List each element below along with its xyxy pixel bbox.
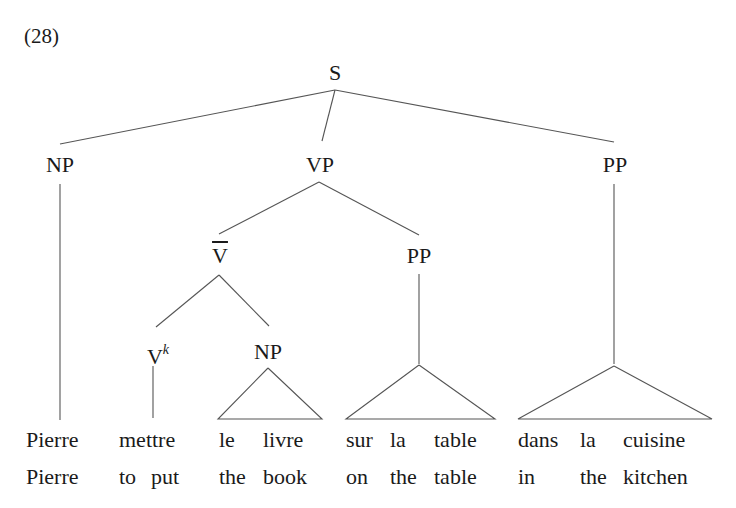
word-fr: la: [580, 429, 596, 451]
word-gloss: the: [580, 466, 607, 488]
word-gloss: to: [119, 466, 136, 488]
word-gloss: the: [390, 466, 417, 488]
word-gloss: table: [434, 466, 477, 488]
word-gloss: book: [263, 466, 307, 488]
word-gloss: kitchen: [623, 466, 688, 488]
word-fr: cuisine: [623, 429, 685, 451]
triangle-pp-dans-la-cuisine: [518, 366, 712, 419]
example-number: (28): [24, 24, 59, 49]
word-gloss: the: [219, 466, 246, 488]
node-np-subject: NP: [46, 154, 74, 176]
node-vp: VP: [306, 154, 334, 176]
branch-s-np: [60, 90, 335, 144]
word-gloss: in: [518, 466, 535, 488]
syntax-tree-figure: (28) S NP VP PP V PP Vk NP Pierre mettre…: [0, 0, 736, 508]
word-fr: dans: [518, 429, 558, 451]
branch-vbar-vk: [156, 275, 219, 327]
word-fr: mettre: [119, 429, 175, 451]
word-fr: la: [390, 429, 406, 451]
node-v-k: Vk: [147, 341, 169, 368]
triangle-np-le-livre: [218, 368, 322, 419]
node-np-object: NP: [254, 341, 282, 363]
word-gloss: Pierre: [26, 466, 79, 488]
node-v-bar: V: [212, 245, 228, 267]
word-fr: le: [219, 429, 235, 451]
word-fr: Pierre: [26, 429, 79, 451]
node-v-k-base: V: [147, 344, 163, 369]
branch-vbar-np: [219, 275, 269, 326]
branch-vp-vbar: [219, 182, 319, 234]
branch-s-pp: [335, 90, 614, 142]
node-pp-locative: PP: [603, 154, 627, 176]
word-fr: sur: [346, 429, 373, 451]
branch-s-vp: [322, 90, 335, 141]
word-gloss: on: [346, 466, 368, 488]
word-gloss: put: [151, 466, 179, 488]
node-pp-goal: PP: [407, 245, 431, 267]
branch-vp-pp: [319, 182, 419, 235]
triangle-pp-sur-la-table: [346, 365, 495, 419]
word-fr: livre: [263, 429, 303, 451]
node-s: S: [329, 62, 341, 84]
node-v-k-superscript: k: [163, 342, 169, 357]
word-fr: table: [434, 429, 477, 451]
